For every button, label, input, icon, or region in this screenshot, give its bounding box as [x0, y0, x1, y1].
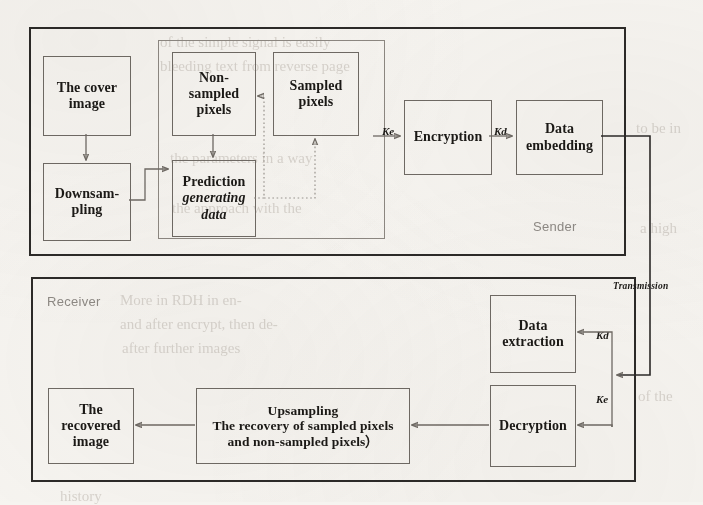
wire-bus-to-decryption: [578, 425, 612, 427]
wire-prediction-to-sampled-dotted: [264, 139, 315, 198]
wire-bus-to-data-extraction: [578, 332, 612, 338]
wire-downsampling-to-prediction-group: [129, 169, 168, 200]
wire-data-embedding-to-transmission: [601, 136, 650, 375]
wire-prediction-to-nonsampled-dotted: [254, 96, 264, 198]
